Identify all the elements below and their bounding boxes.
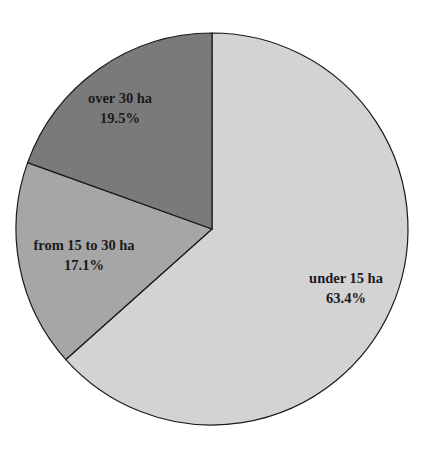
slice-label-15-to-30: from 15 to 30 ha — [33, 237, 135, 253]
slice-label-over-30: over 30 ha — [88, 90, 153, 106]
pie-chart: over 30 ha 19.5% from 15 to 30 ha 17.1% … — [0, 0, 425, 451]
pie-slices — [16, 33, 408, 425]
slice-value-under-15: 63.4% — [326, 290, 366, 306]
slice-value-over-30: 19.5% — [100, 110, 140, 126]
slice-label-under-15: under 15 ha — [309, 270, 384, 286]
slice-value-15-to-30: 17.1% — [64, 257, 104, 273]
